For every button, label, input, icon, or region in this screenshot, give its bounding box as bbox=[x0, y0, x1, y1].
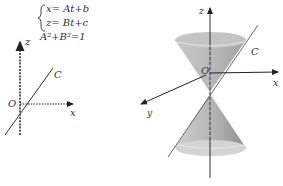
right-figure bbox=[141, 8, 278, 178]
right-y-axis bbox=[141, 75, 206, 104]
right-z-label: z bbox=[198, 6, 204, 16]
left-curve-label: C bbox=[54, 69, 62, 80]
left-z-label: z bbox=[24, 36, 31, 47]
left-x-label: x bbox=[70, 107, 76, 118]
equation-x: x= At+b bbox=[46, 3, 89, 15]
diagram-canvas: z x O C z x y O C bbox=[0, 0, 283, 186]
left-figure bbox=[5, 42, 73, 135]
right-y-label: y bbox=[146, 108, 153, 118]
equation-constraint: A²+B²=1 bbox=[40, 31, 86, 43]
equation-z: z= Bt+c bbox=[46, 17, 88, 29]
right-x-label: x bbox=[273, 78, 278, 88]
equation-brace bbox=[38, 5, 45, 31]
right-origin-label: O bbox=[201, 65, 209, 76]
right-curve-label: C bbox=[251, 46, 259, 57]
left-origin-label: O bbox=[8, 98, 16, 109]
